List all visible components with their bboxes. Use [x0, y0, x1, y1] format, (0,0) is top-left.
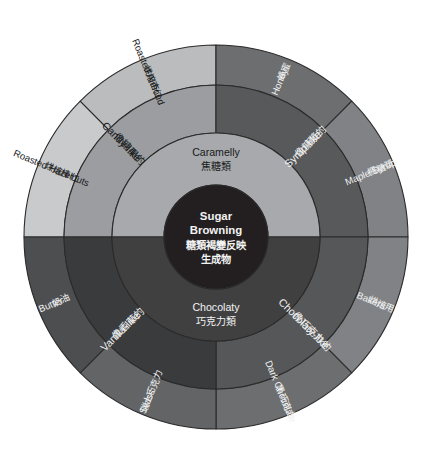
wheel-canvas: Roasted Hazelnuts烘焙榛仁Roasted Almond烘焙杏仁H…	[0, 0, 429, 451]
flavor-wheel-diagram: Roasted Hazelnuts烘焙榛仁Roasted Almond烘焙杏仁H…	[0, 0, 429, 451]
core-ring	[164, 185, 268, 289]
core-circle[interactable]	[164, 185, 268, 289]
